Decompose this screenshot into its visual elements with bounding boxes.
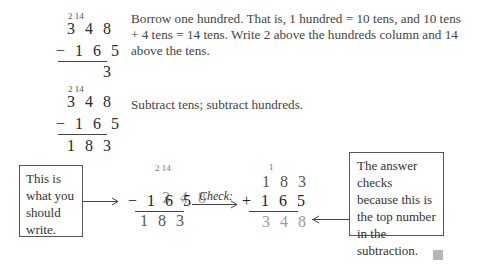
step2-result: 1 8 3 [64,138,114,154]
right-callout-box: The answer checks because this is the to… [349,152,444,236]
addition-top-number: 1 8 3 [262,174,298,190]
carry-mark: 1 [269,163,274,172]
step2-top-number: 3 4 8 [64,94,114,110]
right-callout-text: The answer checks because this is the to… [357,158,436,258]
check-arrow-head-icon [230,200,239,209]
left-callout-box: This is what you should write. [19,165,83,237]
arrow-right-head-icon [111,197,120,206]
step1-explanation: Borrow one hundred. That is, 1 hundred =… [131,11,471,59]
addition-rule [249,211,298,212]
step2-bottom-number: − 1 6 5 [56,116,114,132]
diagram-result: 1 8 3 [140,213,184,229]
step1-top-number: 3 4 8 [64,21,114,37]
diagram-bottom-number: − 1 6 5 [128,193,184,209]
step1-rule [58,61,107,62]
check-label: Check: [199,189,233,204]
step2-explanation: Subtract tens; subtract hundreds. [131,97,471,113]
step2-rule [58,134,107,135]
step1-result: 3 [64,64,114,80]
addition-bottom-number: + 1 6 5 [242,193,298,209]
addition-result: 3 4 8 [262,214,298,230]
step1-bottom-number: − 1 6 5 [56,43,114,59]
arrow-left-line [312,219,349,220]
diagram-borrow-marks: 2 14 [155,164,171,173]
left-callout-text: This is what you should write. [26,171,74,237]
end-of-section-marker-icon [433,250,443,260]
